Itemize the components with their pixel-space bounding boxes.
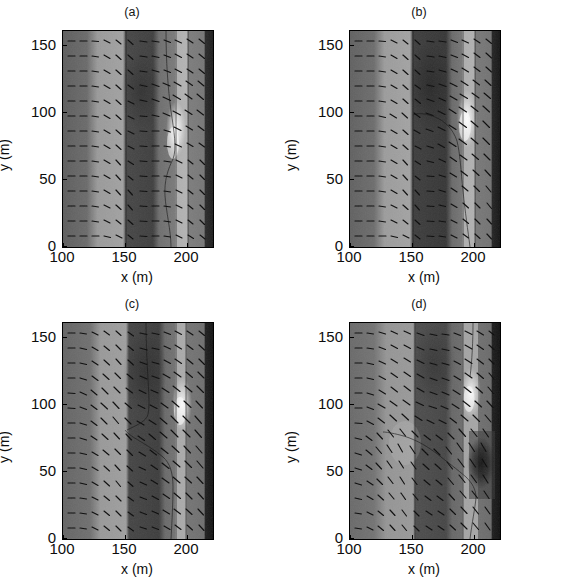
yticklabel-100: 100 (20, 103, 56, 120)
ytick-150 (349, 337, 354, 338)
yticklabel-150: 150 (20, 36, 56, 53)
ytick-50 (62, 179, 67, 180)
ytick-150 (62, 45, 67, 46)
panel-b: (b) (287, 0, 574, 291)
xaxis-label: x (m) (408, 269, 440, 285)
ytick-0 (62, 538, 67, 539)
panel-c-field (63, 323, 213, 539)
panel-b-title: (b) (399, 5, 439, 19)
ytick-150 (349, 45, 354, 46)
panel-d-title: (d) (399, 297, 439, 311)
xticklabel-150: 150 (398, 248, 423, 265)
yticklabel-150: 150 (20, 328, 56, 345)
panel-a-title: (a) (112, 5, 152, 19)
xaxis-label: x (m) (121, 561, 153, 577)
ytick-100 (349, 112, 354, 113)
xticklabel-150: 150 (398, 540, 423, 557)
ytick-0 (349, 538, 354, 539)
yticklabel-0: 0 (42, 237, 56, 254)
yticklabel-50: 50 (28, 462, 56, 479)
yticklabel-0: 0 (329, 529, 343, 546)
ytick-0 (349, 246, 354, 247)
xticklabel-200: 200 (173, 248, 198, 265)
yticklabel-100: 100 (307, 395, 343, 412)
yticklabel-100: 100 (307, 103, 343, 120)
ytick-50 (349, 179, 354, 180)
panel-b-axes (349, 30, 501, 248)
ytick-150 (62, 337, 67, 338)
yticklabel-150: 150 (307, 328, 343, 345)
yticklabel-50: 50 (315, 462, 343, 479)
yticklabel-50: 50 (28, 170, 56, 187)
yaxis-label: y (m) (0, 139, 12, 171)
xaxis-label: x (m) (408, 561, 440, 577)
panel-a: (a) (0, 0, 287, 291)
yticklabel-150: 150 (307, 36, 343, 53)
panel-c-axes (62, 322, 214, 540)
ytick-0 (62, 246, 67, 247)
yticklabel-0: 0 (42, 529, 56, 546)
yticklabel-100: 100 (20, 395, 56, 412)
xticklabel-200: 200 (173, 540, 198, 557)
xticklabel-200: 200 (460, 540, 485, 557)
panel-d-field (350, 323, 500, 539)
yaxis-label: y (m) (0, 431, 12, 463)
ytick-50 (349, 471, 354, 472)
panel-a-axes (62, 30, 214, 248)
figure-container: (a) (0, 0, 574, 583)
xticklabel-150: 150 (111, 540, 136, 557)
xticklabel-150: 150 (111, 248, 136, 265)
ytick-50 (62, 471, 67, 472)
yticklabel-0: 0 (329, 237, 343, 254)
yticklabel-50: 50 (315, 170, 343, 187)
yaxis-label: y (m) (283, 139, 299, 171)
ytick-100 (62, 404, 67, 405)
panel-d-axes (349, 322, 501, 540)
xaxis-label: x (m) (121, 269, 153, 285)
panel-c-title: (c) (112, 297, 152, 311)
ytick-100 (349, 404, 354, 405)
ytick-100 (62, 112, 67, 113)
panel-c: (c) (0, 292, 287, 583)
panel-d: (d) (287, 292, 574, 583)
xticklabel-200: 200 (460, 248, 485, 265)
yaxis-label: y (m) (283, 431, 299, 463)
panel-a-field (63, 31, 213, 247)
panel-b-field (350, 31, 500, 247)
